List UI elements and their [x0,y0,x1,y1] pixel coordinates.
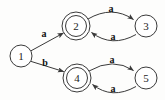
state-2-label: 2 [73,20,79,32]
state-5-label: 5 [143,72,149,84]
transition-1-to-2: a [31,28,64,51]
transition-4-to-5-label: a [110,54,115,65]
transition-4-to-5: a [89,54,134,72]
transition-5-to-4: a [93,83,137,94]
state-3[interactable]: 3 [135,15,157,37]
transition-5-to-4-label: a [111,83,116,94]
transition-3-to-2: a [92,31,137,42]
transition-4-to-5-path [89,64,134,71]
transition-1-to-2-label: a [42,28,47,39]
transition-2-to-3: a [88,3,134,20]
state-2[interactable]: 2 [62,12,90,40]
automaton-diagram: a b a a a a 1 [0,0,165,100]
transition-1-to-4: b [31,57,64,72]
state-1[interactable]: 1 [10,45,32,67]
automaton-svg: a b a a a a 1 [0,0,165,100]
state-1-label: 1 [18,50,24,62]
state-5[interactable]: 5 [135,67,157,89]
state-4-label: 4 [74,72,80,84]
transition-2-to-3-label: a [109,3,114,14]
state-3-label: 3 [143,20,149,32]
transition-3-to-2-label: a [111,31,116,42]
transition-1-to-2-path [31,33,64,51]
state-4[interactable]: 4 [63,64,91,92]
transition-1-to-4-label: b [42,57,48,68]
